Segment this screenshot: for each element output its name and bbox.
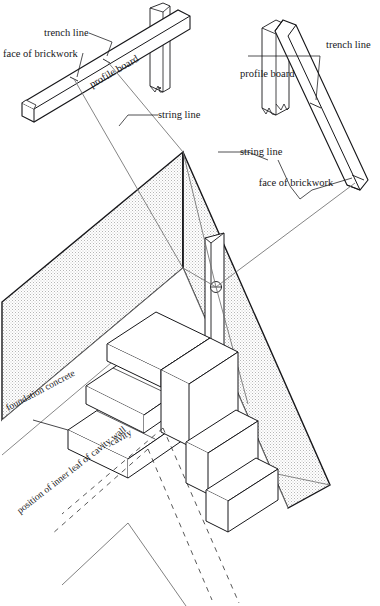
label-trench-line-left: trench line — [44, 27, 89, 38]
label-trench-line-right: trench line — [326, 39, 371, 50]
label-face-of-brickwork-right: face of brickwork — [259, 177, 334, 188]
label-string-line-right: string line — [240, 146, 283, 157]
plan-solid-lines — [62, 523, 186, 606]
label-profile-board-right: profile board — [240, 68, 295, 79]
construction-detail-figure: trench line face of brickwork profile bo… — [0, 0, 380, 606]
profile-board-left — [22, 3, 190, 122]
label-string-line-left: string line — [158, 109, 201, 120]
figure-canvas: trench line face of brickwork profile bo… — [0, 0, 380, 606]
plan-line-left — [62, 523, 128, 585]
label-face-of-brickwork-left: face of brickwork — [3, 48, 78, 59]
plan-line-right — [128, 523, 186, 606]
